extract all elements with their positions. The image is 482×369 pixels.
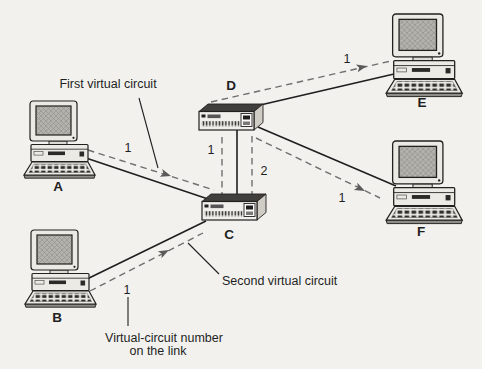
vc-number-caption-line2: on the link	[130, 344, 188, 358]
node-d-label: D	[226, 78, 236, 93]
computer-f-icon	[386, 141, 462, 224]
node-e-label: E	[417, 95, 426, 110]
second-vc-annotation: Second virtual circuit	[222, 274, 338, 288]
vc-number-caption-line1: Virtual-circuit number	[105, 331, 223, 345]
vc-number-link-c-d-second: 2	[261, 164, 268, 178]
vc-number-link-c-d-first: 1	[208, 143, 215, 157]
vc-number-link-a-c: 1	[125, 141, 132, 155]
diagram-canvas: A B C D E F 1 1 1 1 2 1 First virtual ci…	[0, 0, 482, 369]
vc2-b-c-dashed-line	[90, 233, 203, 291]
computer-b-icon	[25, 230, 96, 307]
node-c-label: C	[224, 227, 234, 242]
node-f-label: F	[417, 224, 425, 239]
second-vc-leader-line	[188, 243, 219, 274]
first-vc-leader-line	[139, 98, 158, 168]
vc2-b-c-arrowhead-icon	[158, 246, 171, 258]
first-vc-annotation: First virtual circuit	[59, 77, 157, 91]
vc-number-link-d-e: 1	[344, 52, 351, 66]
link-d-f-line	[258, 127, 396, 186]
computer-e-icon	[386, 14, 462, 97]
vc-number-link-b-c: 1	[124, 283, 131, 297]
vc1-a-c-dashed-line	[88, 150, 214, 190]
switch-c-icon	[202, 194, 266, 220]
virtual-circuit-diagram: A B C D E F 1 1 1 1 2 1 First virtual ci…	[0, 0, 482, 369]
link-a-c-line	[86, 158, 208, 199]
computer-a-icon	[24, 101, 95, 178]
link-d-e-line	[256, 74, 394, 106]
vc1-a-c-arrowhead-icon	[160, 169, 172, 180]
link-b-c-line	[85, 221, 206, 280]
vc2-d-f-arrowhead-icon	[354, 183, 367, 195]
node-b-label: B	[52, 310, 62, 325]
node-a-label: A	[53, 179, 63, 194]
vc-number-link-d-f: 1	[339, 191, 346, 205]
switch-d-icon	[199, 104, 263, 130]
